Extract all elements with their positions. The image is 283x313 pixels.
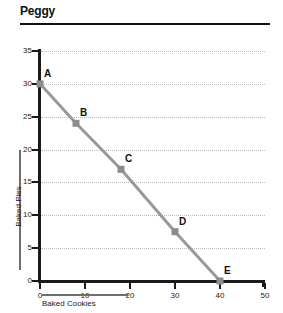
y-axis-title-label: Baked Pies: [14, 147, 23, 267]
chart-plot-area: 05101520253035 01020304050 ABCDE: [0, 0, 283, 313]
data-point-marker: [118, 166, 125, 173]
y-axis-title: Baked Pies: [0, 150, 22, 270]
data-point-marker: [217, 278, 224, 285]
data-point-marker: [37, 80, 44, 87]
x-axis-title-rule: [42, 294, 128, 296]
data-point-marker: [73, 120, 80, 127]
series-line: [0, 0, 283, 313]
data-point-label-c: C: [125, 153, 132, 164]
data-point-label-e: E: [224, 265, 231, 276]
data-point-label-d: D: [179, 216, 186, 227]
data-point-marker: [172, 228, 179, 235]
data-point-label-a: A: [44, 68, 51, 79]
data-point-label-b: B: [80, 107, 87, 118]
x-axis-title-label: Baked Cookies: [42, 299, 96, 308]
